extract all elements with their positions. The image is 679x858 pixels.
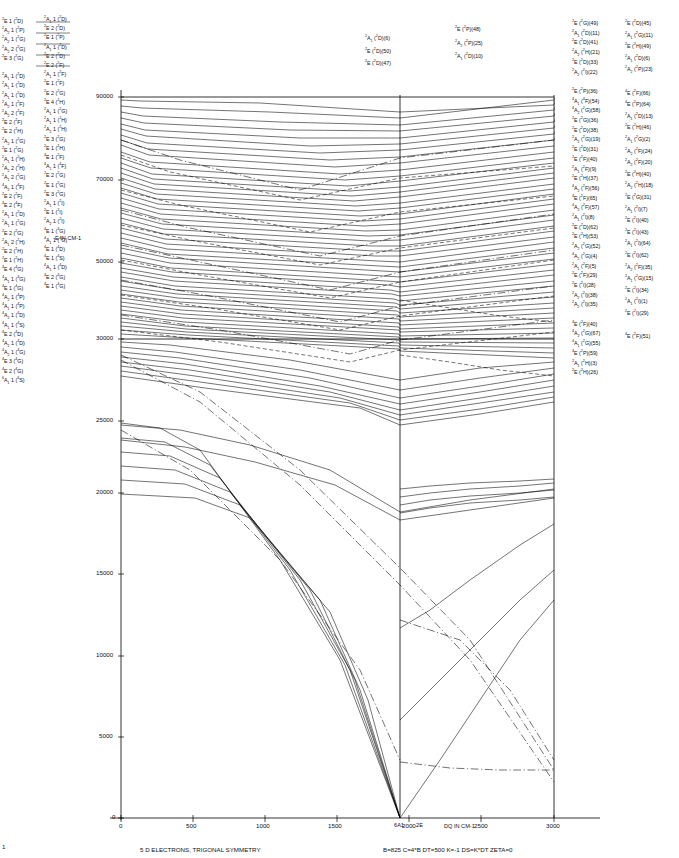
energy-level-label: 2E (2D)(45) [625,18,651,26]
energy-level-label: 2A2 (2F)(24) [625,146,652,157]
energy-level-label: 2A1 (2I)(1) [625,296,648,307]
energy-level-label: 2E 4 (2H) [44,97,65,105]
energy-level-label: 2E (2H)(40) [625,169,651,177]
energy-level-label: 2E 1 (2G) [44,180,65,188]
top-energy-level-label: 2A1 (2D)(10) [455,51,483,62]
energy-level-label: 2A1 (2G)(11) [625,30,653,41]
curves-descending [121,423,400,818]
xtick-1000: 1000 [256,822,270,829]
energy-level-label: 2A1 (2I)(64) [625,238,651,249]
energy-level-label: 2E (2D)(38) [572,125,598,133]
ytick-15000: 15000 [96,569,113,576]
ytick-30000: 30000 [96,334,113,341]
energy-level-label: 2E 2 (2G) [44,88,65,96]
ytick-20000: 20000 [96,488,113,495]
energy-level-label: 2E (2P)(36) [572,86,598,94]
energy-level-label: 2E 3 (2G) [2,53,23,61]
energy-level-label: 2E 1 (2H) [2,255,23,263]
energy-level-label: 2A1 (2G)(2) [625,134,650,145]
energy-level-label: 2E 1 (2P) [44,32,65,40]
energy-level-label: 2A2 (2I)(22) [572,67,598,78]
ytick-25000: 25000 [96,416,113,423]
energy-level-label: 2E (2G)(36) [572,115,598,123]
energy-level-label: 2E (2H)(49) [625,41,651,49]
energy-level-label: 4E 1 (4G) [44,281,65,289]
energy-level-label: 2A2 (2F)(35) [625,262,652,273]
energy-level-label: 2A1 (2D)(6) [625,53,650,64]
energy-level-label: 2E 1 (2I) [44,207,63,215]
energy-level-label: 2E (2I)(43) [625,227,649,235]
top-energy-level-label: 2A1 (2D)(6) [365,33,390,44]
energy-level-label: 2E (2F)(40) [572,154,597,162]
xtick-2000: 2000 [402,822,416,829]
xtick-3000: 3000 [546,822,560,829]
ground-label-2E: 2E [416,822,423,828]
energy-level-label: 2A2 (2H)(18) [625,180,653,191]
energy-level-label: 2E 2 (2G) [2,228,23,236]
top-energy-level-label: 2E (2P)(48) [455,24,481,32]
energy-level-label: 2E (2H)(37) [572,173,598,181]
energy-level-label: 4E (2F)(66) [625,88,650,96]
energy-level-label: 2E (2I)(40) [625,215,649,223]
energy-level-label: 4E (2F)(40) [572,319,597,327]
energy-level-label: 2E 2 (2F) [2,117,22,125]
ytick-5000: 5000 [99,732,113,739]
energy-level-label: 2E 2 (2F) [44,60,64,68]
energy-level-label: 2E (2G)(31) [625,192,651,200]
energy-level-label: 6A1 1 (6S) [2,375,25,386]
ytick-70000: 70000 [96,175,113,182]
energy-level-label: 2E 2 (2H) [2,246,23,254]
energy-level-label: 2E (2H)(53) [572,231,598,239]
level-curves [90,18,578,818]
energy-level-label: 2E 2 (2G) [44,170,65,178]
energy-level-label: 4E 2 (4D) [2,329,23,337]
energy-level-label: 2E (2G)(49) [572,18,598,26]
energy-level-label: 4E 1 (2F) [44,152,64,160]
energy-level-label: 2E (2I)(62) [625,250,649,258]
energy-level-label: 2E 2 (2D) [44,23,65,31]
energy-level-label: 2E (2I)(28) [572,280,596,288]
energy-level-label: 4E 2 (4G) [2,366,23,374]
energy-level-label: 2E (2F)(29) [572,270,597,278]
curves-dashdot [121,140,554,782]
energy-level-label: 4E 1 (4S) [44,253,65,261]
ytick-50000: 50000 [96,257,113,264]
figure-caption-left: 5 D ELECTRONS, TRIGONAL SYMMETRY [140,846,261,853]
energy-level-label: 2E (2D)(62) [572,222,598,230]
energy-level-label: 4E (2F)(65) [572,193,597,201]
energy-level-label: 2E (2I)(34) [625,285,649,293]
figure-caption-right: B=825 C=4*B DT=500 K=-1 DS=K*DT ZETA=0 [383,846,512,853]
energy-level-label: 2E (2H)(26) [572,367,598,375]
top-energy-level-label: 2A2 (2P)(25) [455,38,483,49]
energy-level-label: 4E 1 (4G) [44,226,65,234]
curves-ascending [121,425,554,520]
energy-level-label: 4E 2 (4F) [2,200,22,208]
energy-level-label: 2A1 (2D)(13) [625,111,653,122]
energy-level-label: 4E 1 (4D) [44,244,65,252]
energy-level-label: 4E (2F)(51) [625,331,650,339]
energy-level-label: 2A2 (2F)(20) [625,157,652,168]
energy-level-label: 2E (2H)(46) [625,122,651,130]
energy-level-label: 2E 2 (2H) [2,126,23,134]
top-energy-level-label: 2E (2D)(47) [365,58,391,66]
energy-level-label: 2E (2I)(29) [625,308,649,316]
axes [110,90,600,820]
xtick-2500: 2500 [474,822,488,829]
energy-level-label: 2A2 (2P)(23) [625,64,653,75]
energy-level-label: 4E (2P)(59) [572,348,598,356]
energy-level-label: 4E (2P)(64) [625,99,651,107]
xtick-1500: 1500 [328,822,342,829]
energy-level-label: 2A1 (2G)(15) [625,273,653,284]
energy-level-label: 4E 2 (4G) [44,272,65,280]
xtick-0: 0 [119,822,122,829]
ytick-0: 0 [112,813,115,820]
ytick-90000: 90000 [96,92,113,99]
page-corner-mark: 1 [2,844,5,850]
ytick-10000: 10000 [96,651,113,658]
energy-level-label: 2E 2 (2F) [2,191,22,199]
energy-level-label: 2A2 (2I)(35) [572,299,598,310]
energy-level-label: 2A1 (2I)(7) [625,204,648,215]
energy-level-label: 2E (2D)(31) [572,144,598,152]
ground-label-6A1: 6A1 [394,822,404,828]
curves-v-shape [400,479,554,818]
